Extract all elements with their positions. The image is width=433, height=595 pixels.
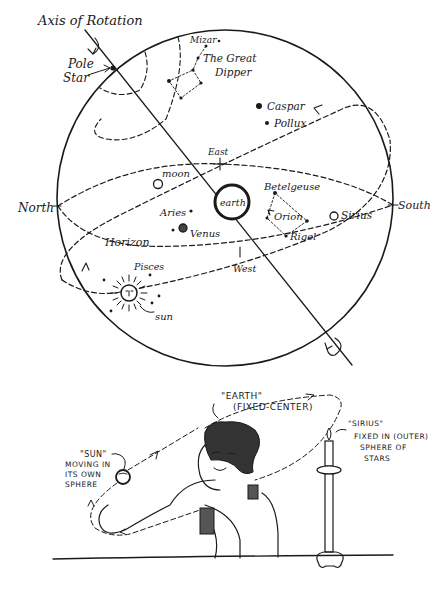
mizar-label: Mizar xyxy=(189,35,217,45)
person-hair xyxy=(205,422,260,474)
held-sun-ball xyxy=(116,470,130,484)
great-dipper xyxy=(167,40,220,100)
moon-label: moon xyxy=(162,168,190,179)
caspar-label: Caspar xyxy=(267,100,306,112)
candlestick xyxy=(317,428,343,567)
ecliptic-arrow xyxy=(314,105,322,114)
circumpolar-path xyxy=(95,37,181,140)
pole-star-label: Pole xyxy=(67,57,94,71)
sun-label: sun xyxy=(155,311,173,322)
svg-text:SPHERE: SPHERE xyxy=(65,480,98,489)
earth-label: earth xyxy=(220,197,246,208)
svg-text:Star: Star xyxy=(63,71,90,85)
svg-text:(FIXED-CENTER): (FIXED-CENTER) xyxy=(233,402,313,412)
orion-label: Orion xyxy=(274,211,303,222)
great-dipper-label: The Great xyxy=(203,52,257,64)
svg-text:MOVING IN: MOVING IN xyxy=(65,460,111,469)
svg-text:SPHERE OF: SPHERE OF xyxy=(360,443,407,452)
pollux-label: Pollux xyxy=(273,117,306,129)
celestial-sphere-diagram: Axis of Rotation Pole Star Mizar The Gre… xyxy=(0,0,433,595)
rigel-label: Rigel xyxy=(289,231,316,242)
west-label: West xyxy=(233,263,256,274)
sirius-analogy-label: "SIRIUS" xyxy=(348,419,384,428)
venus-dot xyxy=(179,224,187,232)
sirius-label: Sirius xyxy=(341,209,373,221)
svg-text:STARS: STARS xyxy=(364,454,390,463)
horizon-label: Horizon xyxy=(104,236,150,249)
north-label: North xyxy=(17,201,54,215)
sun-analogy-label: "SUN" xyxy=(80,450,107,459)
east-label: East xyxy=(207,147,229,157)
betelgeuse-label: Betelgeuse xyxy=(263,181,320,192)
svg-text:Dipper: Dipper xyxy=(214,66,252,78)
arm-bracelet xyxy=(200,508,214,534)
pisces-label: Pisces xyxy=(133,261,164,272)
caspar-dot xyxy=(256,103,262,109)
pole-star-dot xyxy=(110,65,115,70)
sun-orbit-path xyxy=(128,428,198,470)
svg-text:FIXED IN (OUTER): FIXED IN (OUTER) xyxy=(354,432,429,441)
axis-of-rotation-label: Axis of Rotation xyxy=(37,13,143,28)
pollux-dot xyxy=(265,121,269,125)
aries-label: Aries xyxy=(159,207,186,218)
rotation-arrow-bottom xyxy=(327,338,341,355)
svg-text:ITS OWN: ITS OWN xyxy=(65,470,101,479)
south-label: South xyxy=(398,199,431,212)
sirius-circle xyxy=(330,212,338,220)
sun-glyph xyxy=(111,275,147,311)
earth-analogy-label: "EARTH" xyxy=(221,391,263,401)
analogy-scene xyxy=(53,394,393,567)
venus-label: Venus xyxy=(190,228,220,239)
moon-circle xyxy=(154,180,163,189)
